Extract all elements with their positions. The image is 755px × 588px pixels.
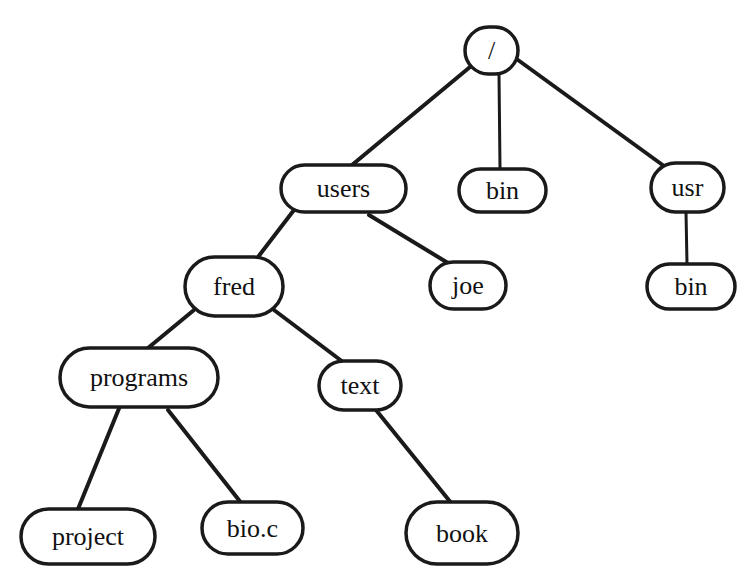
tree-edges bbox=[78, 60, 687, 509]
node-label: fred bbox=[213, 272, 255, 301]
edge-users-to-joe bbox=[369, 215, 448, 263]
edge-programs-to-bio_c bbox=[168, 410, 242, 504]
directory-tree-diagram: /usersbinusrfredjoebinprogramstextprojec… bbox=[0, 0, 755, 588]
node-label: project bbox=[52, 522, 125, 551]
edge-fred-to-programs bbox=[148, 310, 194, 348]
edge-root-to-users bbox=[352, 67, 470, 165]
node-label: usr bbox=[672, 173, 704, 202]
node-label: bin bbox=[674, 272, 707, 301]
tree-node-project: project bbox=[21, 509, 155, 564]
node-label: bio.c bbox=[227, 514, 278, 543]
node-label: joe bbox=[451, 271, 484, 300]
node-label: / bbox=[488, 36, 496, 65]
node-label: book bbox=[436, 519, 488, 548]
edge-usr-to-usr_bin bbox=[686, 212, 687, 264]
tree-node-text: text bbox=[319, 361, 401, 410]
tree-node-joe: joe bbox=[430, 262, 506, 309]
tree-node-fred: fred bbox=[185, 257, 283, 316]
node-label: users bbox=[317, 174, 370, 203]
tree-node-usr-bin: bin bbox=[647, 264, 735, 309]
tree-node-book: book bbox=[406, 502, 518, 564]
tree-node-bin: bin bbox=[459, 169, 546, 212]
tree-nodes: /usersbinusrfredjoebinprogramstextprojec… bbox=[21, 27, 735, 564]
edge-fred-to-text bbox=[274, 310, 343, 362]
edge-text-to-book bbox=[376, 410, 452, 504]
node-label: programs bbox=[90, 363, 188, 392]
edge-root-to-usr bbox=[518, 60, 664, 166]
edge-users-to-fred bbox=[258, 210, 294, 257]
tree-node-root: / bbox=[465, 27, 518, 74]
tree-node-usr: usr bbox=[651, 163, 724, 212]
edge-root-to-bin bbox=[499, 74, 500, 169]
node-label: bin bbox=[486, 176, 519, 205]
node-label: text bbox=[341, 371, 381, 400]
tree-node-users: users bbox=[281, 165, 406, 212]
tree-node-bio-c: bio.c bbox=[202, 502, 303, 554]
edge-programs-to-project bbox=[78, 406, 120, 509]
tree-node-programs: programs bbox=[60, 348, 218, 407]
